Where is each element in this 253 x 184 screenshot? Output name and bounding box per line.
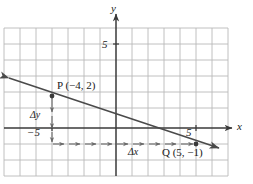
y-axis-label: y (111, 2, 116, 14)
point-p-label: P (−4, 2) (57, 79, 96, 91)
delta-y-label: Δy (30, 109, 40, 120)
figure-container: x y 5 −5 5 P (−4, 2) Q (5, −1) Δy Δx (0, 0, 253, 184)
x-tick-label-neg5: −5 (27, 126, 40, 138)
x-axis-label: x (237, 120, 242, 132)
point-p-marker (50, 94, 55, 99)
x-tick-label-5: 5 (186, 126, 192, 138)
y-tick-label-5: 5 (102, 38, 108, 50)
coordinate-plane-svg (0, 0, 253, 184)
delta-x-label: Δx (128, 146, 138, 157)
point-q-label: Q (5, −1) (162, 146, 203, 158)
